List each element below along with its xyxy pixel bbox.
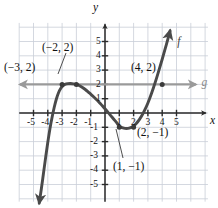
y-tick-label--4: -4 [90, 165, 98, 175]
x-tick-label--4: -4 [41, 118, 49, 128]
label-1-neg1: (1, −1) [113, 161, 144, 173]
y-tick-label-5: 5 [96, 37, 101, 47]
y-tick-label-2: 2 [96, 80, 101, 90]
y-axis-label: y [93, 2, 98, 14]
x-tick-label-5: 5 [174, 118, 179, 128]
y-tick-label--3: -3 [90, 151, 98, 161]
graph-svg [0, 0, 218, 208]
label-neg2-2: (−2, 2) [42, 42, 73, 54]
point-neg2-2 [74, 82, 79, 87]
x-tick-label-2: 2 [131, 118, 136, 128]
point-neg3-2 [60, 82, 65, 87]
x-axis-label: x [210, 115, 215, 127]
curve-f-label: f [177, 36, 180, 48]
y-tick-label--1: -1 [90, 123, 98, 133]
label-4-2: (4, 2) [131, 62, 156, 74]
x-tick-label--2: -2 [70, 118, 78, 128]
x-tick-label--3: -3 [56, 118, 64, 128]
label-neg3-2: (−3, 2) [4, 62, 35, 74]
figure-canvas: -5-4-3-2-11234554321-1-2-3-4-5yxfg(−3, 2… [0, 0, 218, 208]
y-tick-label-3: 3 [96, 65, 101, 75]
y-tick-label-4: 4 [96, 51, 101, 61]
y-tick-label--5: -5 [90, 180, 98, 190]
label-2-neg1: (2, −1) [137, 127, 168, 139]
y-tick-label--2: -2 [90, 137, 98, 147]
x-tick-label-1: 1 [117, 118, 122, 128]
x-tick-label--5: -5 [27, 118, 35, 128]
point-4-2 [160, 82, 165, 87]
y-tick-label-1: 1 [96, 94, 101, 104]
curve-g-label: g [202, 77, 208, 89]
